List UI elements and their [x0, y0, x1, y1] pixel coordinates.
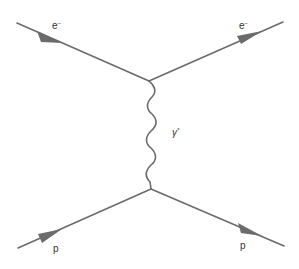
feynman-diagram: e− e− γ* p p: [0, 0, 299, 269]
incoming-proton-label: p: [53, 243, 59, 254]
incoming-proton-arrow-icon: [38, 229, 62, 243]
outgoing-proton-arrow-icon: [238, 223, 262, 236]
outgoing-electron-label: e−: [239, 20, 248, 31]
incoming-proton-line: [18, 189, 151, 248]
incoming-electron-label: e−: [52, 20, 61, 31]
incoming-electron-line: [17, 23, 149, 81]
outgoing-electron-arrow-shape-icon: [237, 31, 262, 44]
outgoing-electron-line: [149, 22, 283, 81]
photon-label: γ*: [172, 127, 179, 138]
virtual-photon-wavy-line: [146, 81, 156, 189]
diagram-lines: [0, 0, 299, 269]
outgoing-proton-line: [151, 189, 284, 246]
outgoing-proton-label: p: [240, 240, 246, 251]
